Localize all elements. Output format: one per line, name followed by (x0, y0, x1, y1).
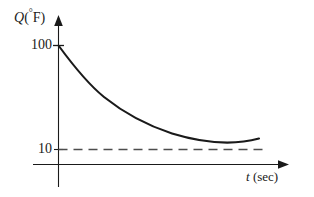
y-axis-label-unit: F (33, 10, 41, 25)
x-axis-label-unit: (sec) (250, 169, 279, 184)
y-tick-label-100: 100 (8, 38, 52, 52)
y-tick-label-10: 10 (8, 142, 52, 156)
x-axis-label: t (sec) (246, 170, 278, 183)
exponential-decay-figure: Q(°F) t (sec) 100 10 (0, 0, 314, 197)
y-axis-arrowhead (54, 15, 63, 26)
y-axis-label-variable: Q (14, 10, 24, 25)
plot-area (0, 0, 314, 197)
decay-curve (59, 46, 260, 143)
y-axis-label: Q(°F) (14, 11, 45, 25)
x-axis-arrowhead (278, 160, 289, 169)
y-axis-label-paren-close: ) (41, 10, 46, 25)
